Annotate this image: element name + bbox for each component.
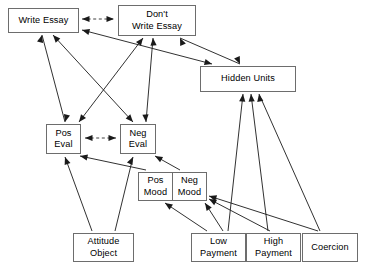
node-label-neg_eval: Neg Eval xyxy=(127,128,149,151)
node-low_payment[interactable]: Low Payment xyxy=(191,233,246,262)
node-pos_mood[interactable]: Pos Mood xyxy=(138,172,173,201)
node-label-neg_mood: Neg Mood xyxy=(176,175,203,198)
arrowhead-e-low-negmood-0 xyxy=(202,201,211,211)
node-high_payment[interactable]: High Payment xyxy=(246,233,301,262)
arrowhead-e-negmood-negeval-0 xyxy=(153,153,163,162)
node-write_essay[interactable]: Write Essay xyxy=(8,8,79,33)
arrowhead-e-we-dwe-1 xyxy=(107,16,115,22)
edge-path-e-attitude-negeval xyxy=(115,157,133,231)
node-coercion[interactable]: Coercion xyxy=(302,233,358,262)
arrowhead-e-attitude-poseval-0 xyxy=(62,156,70,165)
arrowhead-e-dwe-hidden-0 xyxy=(177,37,186,46)
edge-high_payment-to-neg_mood xyxy=(208,196,270,231)
edge-coercion-to-neg_mood xyxy=(208,193,318,231)
diagram-canvas: Write EssayDon't Write EssayHidden Units… xyxy=(0,0,368,266)
node-label-pos_mood: Pos Mood xyxy=(142,175,169,198)
arrowhead-e-high-hidden-0 xyxy=(248,94,255,102)
edge-path-e-dwe-negeval xyxy=(146,38,153,122)
edge-high_payment-to-hidden_units xyxy=(248,94,268,231)
edge-path-e-we-poseval xyxy=(42,35,65,122)
edge-path-e-we-negeval xyxy=(53,35,133,122)
arrowhead-e-poseval-negeval-0 xyxy=(85,135,93,141)
edge-path-e-dwe-hidden xyxy=(180,38,240,64)
edge-dont_write-to-neg_eval xyxy=(142,38,156,122)
edge-path-e-attitude-poseval xyxy=(65,157,92,231)
edge-pos_eval-to-neg_eval xyxy=(85,135,116,141)
edge-dont_write-to-hidden_units xyxy=(177,37,243,66)
edge-path-e-coercion-negmood xyxy=(209,196,318,231)
node-label-attitude_obj: Attitude Object xyxy=(86,236,122,259)
arrowhead-e-attitude-negeval-0 xyxy=(127,156,136,165)
node-label-hidden_units: Hidden Units xyxy=(219,73,277,85)
node-neg_mood[interactable]: Neg Mood xyxy=(172,172,207,201)
edge-low_payment-to-pos_mood xyxy=(163,200,207,231)
edge-write_essay-to-dont_write xyxy=(82,16,114,22)
edge-low_payment-to-neg_mood xyxy=(202,201,223,231)
node-dont_write[interactable]: Don't Write Essay xyxy=(118,5,196,36)
node-label-pos_eval: Pos Eval xyxy=(52,128,74,151)
arrowhead-e-dwe-negeval-1 xyxy=(142,114,149,122)
node-label-dont_write: Don't Write Essay xyxy=(130,9,184,32)
edge-path-e-low-posmood xyxy=(165,203,207,231)
edge-attitude_obj-to-pos_eval xyxy=(62,156,92,231)
arrowhead-e-dwe-negeval-0 xyxy=(150,38,157,46)
edge-path-e-low-hidden xyxy=(228,94,243,231)
arrowhead-e-posmood-poseval-0 xyxy=(79,153,88,161)
node-attitude_obj[interactable]: Attitude Object xyxy=(73,233,134,262)
edge-path-e-coercion-hidden xyxy=(259,94,320,231)
node-label-high_payment: High Payment xyxy=(253,236,294,259)
node-label-write_essay: Write Essay xyxy=(17,15,71,27)
arrowhead-e-dwe-poseval-1 xyxy=(77,114,86,124)
arrowhead-e-poseval-negeval-1 xyxy=(109,135,117,141)
arrowhead-e-low-hidden-0 xyxy=(239,94,246,102)
edge-path-e-high-negmood xyxy=(209,199,270,231)
node-label-low_payment: Low Payment xyxy=(198,236,239,259)
arrowhead-e-we-dwe-0 xyxy=(82,16,90,22)
edge-neg_mood-to-neg_eval xyxy=(153,153,180,170)
arrowhead-e-low-posmood-0 xyxy=(163,200,173,209)
node-label-coercion: Coercion xyxy=(309,242,351,254)
arrowhead-e-dwe-hidden-1 xyxy=(234,56,243,65)
edge-pos_mood-to-pos_eval xyxy=(79,153,146,170)
edge-dont_write-to-pos_eval xyxy=(77,36,146,124)
edge-write_essay-to-neg_eval xyxy=(51,33,136,124)
node-neg_eval[interactable]: Neg Eval xyxy=(120,124,156,154)
edge-path-e-dwe-poseval xyxy=(79,38,143,122)
node-hidden_units[interactable]: Hidden Units xyxy=(200,66,296,92)
node-pos_eval[interactable]: Pos Eval xyxy=(46,124,81,154)
arrowhead-e-we-hidden-0 xyxy=(81,27,90,35)
edge-path-e-posmood-poseval xyxy=(80,156,146,170)
